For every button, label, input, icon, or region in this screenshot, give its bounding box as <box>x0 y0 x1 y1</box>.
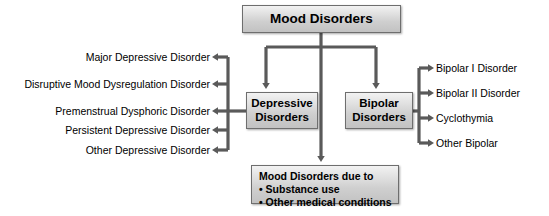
node-bipolar-line-2: Disorders <box>352 111 406 125</box>
node-bipolar-disorders: Bipolar Disorders <box>345 92 413 129</box>
leaf-persistent-depressive-disorder: Persistent Depressive Disorder <box>65 125 210 136</box>
leaf-other-bipolar: Other Bipolar <box>436 138 498 149</box>
leaf-bipolar-ii-disorder: Bipolar II Disorder <box>436 88 520 99</box>
leaf-other-depressive-disorder: Other Depressive Disorder <box>86 145 210 156</box>
leaf-bipolar-i-disorder: Bipolar I Disorder <box>436 63 517 74</box>
node-mood-disorders: Mood Disorders <box>242 5 401 33</box>
node-bipolar-disorders-label: Bipolar Disorders <box>352 97 406 124</box>
node-depressive-line-2: Disorders <box>251 111 312 125</box>
leaf-cyclothymia: Cyclothymia <box>436 113 493 124</box>
leaf-major-depressive-disorder: Major Depressive Disorder <box>86 52 210 63</box>
node-depressive-line-1: Depressive <box>251 97 312 111</box>
node-depressive-disorders-label: Depressive Disorders <box>251 97 312 124</box>
node-bipolar-line-1: Bipolar <box>352 97 406 111</box>
secondary-bullet-other-medical-conditions: • Other medical conditions <box>259 196 398 209</box>
mood-disorders-diagram: Mood Disorders Depressive Disorders Bipo… <box>0 0 549 216</box>
node-mood-disorders-label: Mood Disorders <box>270 11 373 27</box>
node-depressive-disorders: Depressive Disorders <box>246 92 318 129</box>
node-secondary-mood-disorders: Mood Disorders due to • Substance use • … <box>251 165 399 204</box>
leaf-premenstrual-dysphoric-disorder: Premenstrual Dysphoric Disorder <box>55 106 210 117</box>
secondary-heading: Mood Disorders due to <box>259 170 398 183</box>
secondary-bullet-substance-use: • Substance use <box>259 183 398 196</box>
leaf-disruptive-mood-dysregulation-disorder: Disruptive Mood Dysregulation Disorder <box>24 79 210 90</box>
